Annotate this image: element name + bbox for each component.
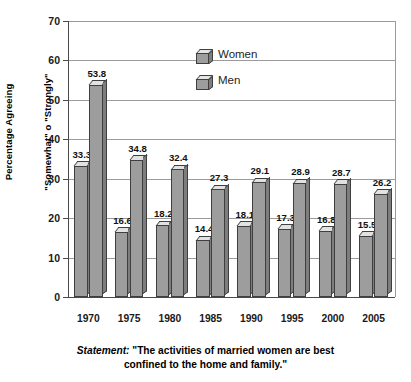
bar-side-face <box>266 177 270 295</box>
bar-women-2005[interactable] <box>359 236 373 297</box>
x-axis-label-1970: 1970 <box>77 313 100 324</box>
bar-front-face <box>293 183 307 297</box>
bar-front-face <box>278 229 292 297</box>
value-label-men-2000: 28.7 <box>332 167 351 178</box>
bar-front-face <box>89 85 103 297</box>
bar-men-1995[interactable] <box>293 183 307 297</box>
y-tick-mark-20 <box>63 218 69 219</box>
caption-line-1: "The activities of married women are bes… <box>129 345 334 356</box>
y-axis-title-line-1: Percentage Agreeing <box>2 12 15 252</box>
y-axis-tick-label: 30 <box>48 173 60 185</box>
bar-front-face <box>171 169 185 297</box>
y-axis-tick-label: 50 <box>48 94 60 106</box>
bar-men-1975[interactable] <box>130 160 144 297</box>
y-axis-tick-label: 10 <box>48 252 60 264</box>
bar-side-face <box>388 188 392 294</box>
legend-label-men: Men <box>218 74 240 86</box>
gridline-70 <box>69 21 395 22</box>
bar-side-face <box>306 178 310 295</box>
y-axis-tick-label: 70 <box>48 15 60 27</box>
cube-icon <box>196 75 211 89</box>
y-axis-tick-label: 60 <box>48 54 60 66</box>
bar-front-face <box>115 232 129 297</box>
bar-front-face <box>211 189 225 297</box>
value-label-men-2005: 26.2 <box>373 177 392 188</box>
bar-front-face <box>237 226 251 297</box>
bar-front-face <box>359 236 373 297</box>
bar-front-face <box>252 182 266 297</box>
bar-men-1980[interactable] <box>171 169 185 297</box>
y-axis-tick-label: 40 <box>48 133 60 145</box>
bar-women-1980[interactable] <box>156 225 170 297</box>
x-axis-label-1990: 1990 <box>240 313 263 324</box>
bar-front-face <box>334 184 348 297</box>
bar-side-face <box>225 184 229 295</box>
legend-item-men[interactable]: Men <box>196 70 316 96</box>
legend-item-women[interactable]: Women <box>196 44 316 70</box>
value-label-men-1980: 32.4 <box>169 152 188 163</box>
bar-front-face <box>156 225 170 297</box>
x-axis-label-2000: 2000 <box>321 313 344 324</box>
value-label-men-1970: 53.8 <box>88 68 107 79</box>
chart-legend: Women Men <box>196 44 316 96</box>
y-tick-mark-0 <box>63 297 69 298</box>
bar-men-1970[interactable] <box>89 85 103 297</box>
gridline-0 <box>69 297 395 298</box>
value-label-men-1995: 28.9 <box>291 166 310 177</box>
x-axis-label-1980: 1980 <box>158 313 181 324</box>
x-axis-label-2005: 2005 <box>362 313 385 324</box>
bar-men-2005[interactable] <box>374 194 388 297</box>
y-axis-tick-label: 20 <box>48 212 60 224</box>
value-label-men-1990: 29.1 <box>251 165 270 176</box>
y-tick-mark-60 <box>63 60 69 61</box>
x-axis-label-1985: 1985 <box>199 313 222 324</box>
bar-men-1990[interactable] <box>252 182 266 297</box>
chart-figure: Percentage Agreeing "Somewhat" o "Strong… <box>0 0 411 382</box>
bar-men-2000[interactable] <box>334 184 348 297</box>
cube-icon <box>196 49 211 63</box>
bar-men-1985[interactable] <box>211 189 225 297</box>
x-axis-label-1995: 1995 <box>281 313 304 324</box>
y-axis-tick-label: 0 <box>54 291 60 303</box>
bar-side-face <box>184 164 188 295</box>
legend-label-women: Women <box>218 48 257 60</box>
bar-side-face <box>143 154 147 294</box>
gridline-50 <box>69 100 395 101</box>
y-tick-mark-40 <box>63 139 69 140</box>
value-label-men-1985: 27.3 <box>210 172 229 183</box>
bar-front-face <box>374 194 388 297</box>
bar-side-face <box>347 178 351 294</box>
caption-line-2: confined to the home and family." <box>124 359 287 370</box>
bar-front-face <box>196 240 210 297</box>
y-tick-mark-30 <box>63 179 69 180</box>
value-label-men-1975: 34.8 <box>128 143 147 154</box>
bar-front-face <box>130 160 144 297</box>
bar-women-1970[interactable] <box>74 166 88 297</box>
x-axis-label-1975: 1975 <box>118 313 141 324</box>
bar-women-1995[interactable] <box>278 229 292 297</box>
chart-caption: Statement: "The activities of married wo… <box>0 344 411 372</box>
bar-women-2000[interactable] <box>319 231 333 297</box>
bar-women-1975[interactable] <box>115 232 129 297</box>
bar-women-1990[interactable] <box>237 226 251 297</box>
y-tick-mark-10 <box>63 258 69 259</box>
bar-side-face <box>103 79 107 294</box>
caption-statement-prefix: Statement: <box>77 345 130 356</box>
gridline-40 <box>69 139 395 140</box>
y-tick-mark-70 <box>63 21 69 22</box>
y-tick-mark-50 <box>63 100 69 101</box>
bar-front-face <box>319 231 333 297</box>
bar-front-face <box>74 166 88 297</box>
bar-women-1985[interactable] <box>196 240 210 297</box>
